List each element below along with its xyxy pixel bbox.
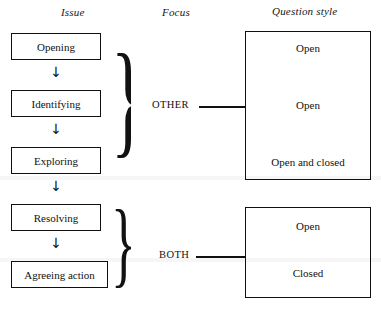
down-arrow-icon: ↓ [11,236,101,250]
focus-label-other: OTHER [152,99,189,110]
question-style-item: Open [246,220,370,232]
question-style-item: Open and closed [246,156,370,168]
down-arrow-icon: ↓ [11,65,101,79]
stage-box-opening: Opening [11,33,101,60]
brace-glyph: } [111,50,131,162]
stage-box-agreeing-action: Agreeing action [11,261,108,288]
column-header-focus: Focus [162,6,190,18]
question-style-item: Open [246,42,370,54]
question-style-item: Open [246,99,370,111]
question-style-item: Closed [246,267,370,279]
down-arrow-icon: ↓ [11,179,101,193]
stage-box-identifying: Identifying [11,90,101,117]
group-brace-lower: } [111,208,131,298]
group-brace-upper: } [111,50,131,172]
focus-label-both: BOTH [159,249,189,260]
down-arrow-icon: ↓ [11,122,101,136]
connector-line-both [196,256,246,258]
brace-glyph: } [111,208,131,291]
stage-box-resolving: Resolving [11,204,101,231]
column-header-issue: Issue [61,6,85,18]
process-diagram: Issue Focus Question style Opening ↓ Ide… [0,0,381,309]
question-style-box-both: Open Closed [245,207,371,298]
connector-line-other [199,106,246,108]
question-style-box-other: Open Open Open and closed [245,31,371,180]
column-header-question-style: Question style [272,5,337,17]
stage-box-exploring: Exploring [11,147,101,174]
